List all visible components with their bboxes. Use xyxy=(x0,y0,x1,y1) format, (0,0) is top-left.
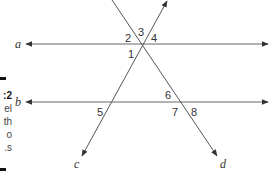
angle-label-3: 3 xyxy=(138,27,144,38)
line-label-a: a xyxy=(15,38,21,50)
caption-fragment-5: s. xyxy=(0,143,12,153)
caption-fragment-2: el xyxy=(0,104,12,114)
angle-label-8: 8 xyxy=(191,107,197,118)
caption-fragment-4: o xyxy=(0,130,12,140)
angle-label-7: 7 xyxy=(172,107,178,118)
caption-bar-bottom xyxy=(0,168,6,171)
caption-bar-top xyxy=(0,77,6,80)
line-d xyxy=(112,0,217,156)
angle-label-5: 5 xyxy=(97,107,103,118)
line-c xyxy=(82,1,167,156)
angle-label-4: 4 xyxy=(151,33,157,44)
line-label-c: c xyxy=(74,158,79,170)
angle-label-2: 2 xyxy=(125,33,131,44)
parallel-lines-diagram xyxy=(0,0,269,172)
line-label-b: b xyxy=(15,96,21,108)
angle-label-1: 1 xyxy=(128,49,134,60)
line-label-d: d xyxy=(220,158,226,170)
caption-fragment-1: 2: xyxy=(0,91,12,101)
caption-fragment-3: th xyxy=(0,117,12,127)
angle-label-6: 6 xyxy=(165,90,171,101)
